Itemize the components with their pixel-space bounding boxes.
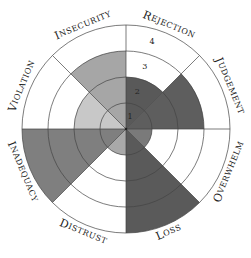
category-label-judgement: JUDGEMENT xyxy=(212,55,248,117)
radial-chart: 1234 REJECTIONJUDGEMENTOVERWHELMLOSSDIST… xyxy=(0,0,251,258)
category-label-violation: VIOLATION xyxy=(5,58,38,115)
category-label-insecurity: INSECURITY xyxy=(53,7,114,42)
level-label: 3 xyxy=(142,62,147,71)
sector-inadequacy xyxy=(22,129,126,203)
grid-lines xyxy=(22,25,230,233)
level-label: 2 xyxy=(135,87,140,96)
sector-loss xyxy=(126,129,200,233)
category-label-distrust: DISTRUST xyxy=(58,216,110,247)
level-label: 4 xyxy=(150,37,155,46)
level-label: 1 xyxy=(127,112,132,121)
center-dot xyxy=(125,128,128,131)
category-label-overwhelm: OVERWHELM xyxy=(210,139,247,205)
